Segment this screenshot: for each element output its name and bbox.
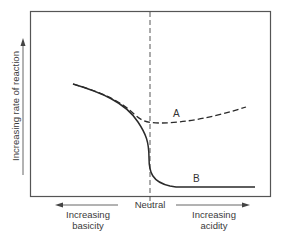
acidity-label-line1: Increasing: [182, 209, 246, 220]
curve-b-label: B: [193, 173, 200, 184]
acidity-label-line2: acidity: [182, 220, 246, 231]
basicity-label: Increasing basicity: [56, 209, 120, 231]
acidity-label: Increasing acidity: [182, 209, 246, 231]
left-arrow-icon: [55, 203, 118, 208]
basicity-label-line1: Increasing: [56, 209, 120, 220]
curve-a: [73, 84, 246, 123]
neutral-label: Neutral: [126, 199, 174, 210]
right-arrow-icon: [176, 203, 250, 208]
curve-a-label: A: [173, 108, 180, 119]
basicity-label-line2: basicity: [56, 220, 120, 231]
diagram-figure: A B Increasing rate of reaction Neutral …: [0, 0, 281, 236]
curve-b: [73, 84, 255, 187]
y-axis-label: Increasing rate of reaction: [10, 41, 22, 171]
